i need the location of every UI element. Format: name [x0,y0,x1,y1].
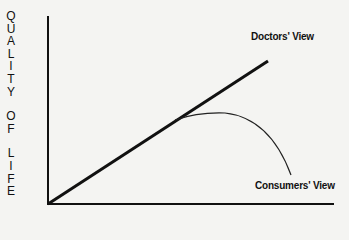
consumers-view-curve [175,113,291,175]
doctors-view-label: Doctors' View [251,31,314,42]
consumers-view-label: Consumers' View [255,180,335,191]
doctors-view-line [48,61,268,204]
